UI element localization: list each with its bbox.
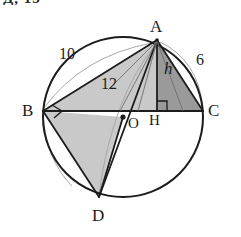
vertex-label-c: C xyxy=(208,102,219,119)
length-label-ac: 6 xyxy=(196,52,204,68)
circle-geometry-figure: Д, 15 xyxy=(0,0,241,237)
vertex-label-b-text: B xyxy=(22,101,33,120)
vertex-label-a-text: A xyxy=(150,17,162,36)
length-label-bd: 12 xyxy=(101,76,117,92)
length-label-ab: 10 xyxy=(59,46,75,62)
point-label-o: O xyxy=(128,116,139,131)
point-label-h-text: H xyxy=(149,112,160,128)
geometry-canvas xyxy=(0,0,241,237)
vertex-label-d: D xyxy=(92,207,104,224)
vertex-label-a: A xyxy=(150,18,162,35)
point-label-h: H xyxy=(149,113,160,128)
length-label-ac-text: 6 xyxy=(196,51,204,68)
length-label-bd-text: 12 xyxy=(101,75,117,92)
vertex-label-d-text: D xyxy=(92,206,104,225)
vertex-a-dot xyxy=(155,38,159,42)
center-point-o-dot xyxy=(120,114,125,119)
altitude-label-h: h xyxy=(164,60,173,77)
length-label-ab-text: 10 xyxy=(59,45,75,62)
vertex-label-b: B xyxy=(22,102,33,119)
vertex-label-c-text: C xyxy=(208,101,219,120)
point-label-o-text: O xyxy=(128,115,139,131)
altitude-label-h-text: h xyxy=(164,59,173,78)
